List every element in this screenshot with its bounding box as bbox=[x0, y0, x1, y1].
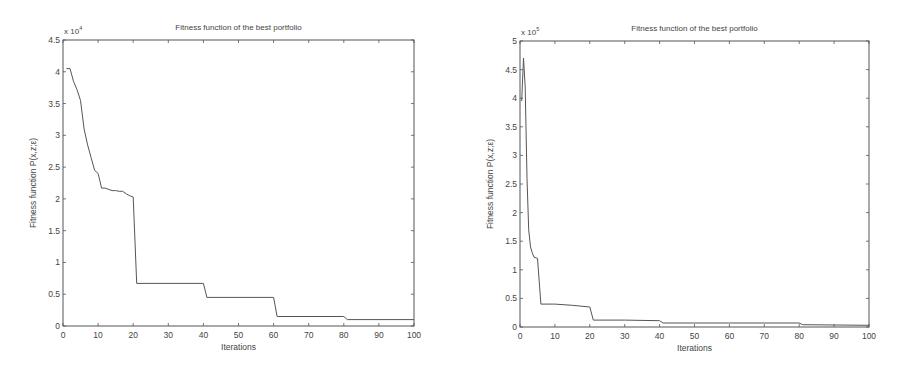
x-tick-label: 0 bbox=[61, 330, 66, 340]
y-tick-label: 3 bbox=[55, 130, 60, 140]
x-tick-label: 30 bbox=[164, 330, 174, 340]
x-tick-label: 100 bbox=[862, 331, 876, 341]
x-tick-label: 100 bbox=[407, 330, 421, 340]
chart-right-svg: Fitness function of the best portfoliox … bbox=[450, 0, 905, 377]
x-tick-label: 20 bbox=[128, 330, 138, 340]
y-tick-label: 4 bbox=[55, 67, 60, 77]
y-tick-label: 3.5 bbox=[48, 99, 60, 109]
x-tick-label: 10 bbox=[93, 330, 103, 340]
chart-title: Fitness function of the best portfolio bbox=[175, 23, 302, 32]
x-tick-label: 90 bbox=[829, 331, 839, 341]
x-tick-label: 60 bbox=[725, 331, 735, 341]
y-tick-label: 0.5 bbox=[505, 293, 517, 303]
y-tick-label: 1.5 bbox=[48, 226, 60, 236]
y-tick-label: 2.5 bbox=[505, 179, 517, 189]
chart-left-svg: Fitness function of the best portfoliox … bbox=[0, 0, 450, 377]
plot-area bbox=[520, 41, 869, 327]
y-multiplier-label: x 104 bbox=[64, 25, 82, 36]
x-tick-label: 10 bbox=[550, 331, 560, 341]
x-tick-label: 50 bbox=[234, 330, 244, 340]
plot-area bbox=[63, 40, 414, 326]
x-tick-label: 20 bbox=[585, 331, 595, 341]
y-tick-label: 3 bbox=[512, 150, 517, 160]
y-tick-label: 3.5 bbox=[505, 122, 517, 132]
x-tick-label: 50 bbox=[690, 331, 700, 341]
y-tick-label: 0.5 bbox=[48, 289, 60, 299]
y-tick-label: 2 bbox=[55, 194, 60, 204]
x-tick-label: 90 bbox=[374, 330, 384, 340]
y-tick-label: 1 bbox=[512, 265, 517, 275]
x-tick-label: 0 bbox=[518, 331, 523, 341]
y-tick-label: 4.5 bbox=[505, 65, 517, 75]
x-tick-label: 30 bbox=[620, 331, 630, 341]
y-tick-label: 5 bbox=[512, 36, 517, 46]
x-tick-label: 80 bbox=[794, 331, 804, 341]
x-tick-label: 80 bbox=[339, 330, 349, 340]
y-tick-label: 1 bbox=[55, 257, 60, 267]
y-tick-label: 2 bbox=[512, 208, 517, 218]
x-tick-label: 70 bbox=[760, 331, 770, 341]
chart-right: Fitness function of the best portfoliox … bbox=[450, 0, 905, 377]
series-line bbox=[522, 58, 869, 325]
x-tick-label: 60 bbox=[269, 330, 279, 340]
y-tick-label: 2.5 bbox=[48, 162, 60, 172]
y-tick-label: 0 bbox=[55, 321, 60, 331]
y-tick-label: 1.5 bbox=[505, 236, 517, 246]
x-tick-label: 70 bbox=[304, 330, 314, 340]
y-tick-label: 0 bbox=[512, 322, 517, 332]
chart-left: Fitness function of the best portfoliox … bbox=[0, 0, 450, 377]
series-line bbox=[67, 69, 415, 320]
y-axis-label: Fitness function P(x,z;ε) bbox=[28, 138, 38, 228]
y-tick-label: 4.5 bbox=[48, 35, 60, 45]
chart-title: Fitness function of the best portfolio bbox=[631, 24, 758, 33]
x-tick-label: 40 bbox=[199, 330, 209, 340]
y-multiplier-label: x 105 bbox=[521, 26, 539, 37]
y-tick-label: 4 bbox=[512, 93, 517, 103]
x-tick-label: 40 bbox=[655, 331, 665, 341]
x-axis-label: Iterations bbox=[677, 343, 712, 353]
x-axis-label: Iterations bbox=[221, 342, 256, 352]
y-axis-label: Fitness function P(x,z;ε) bbox=[485, 139, 495, 229]
